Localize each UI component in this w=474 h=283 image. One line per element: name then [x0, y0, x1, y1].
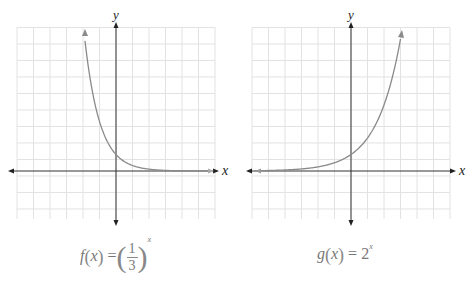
caption-f-equals: =: [108, 247, 117, 264]
right-graph-panel: y x g(x) = 2x: [237, 0, 474, 283]
y-axis-label-left: y: [111, 7, 119, 22]
caption-f-exponent: x: [148, 235, 152, 244]
caption-g-equals: =: [348, 245, 357, 262]
curve-g-start-arrow-icon: [255, 169, 261, 174]
caption-g-base: 2: [361, 245, 369, 262]
caption-f: f(x) =(13)x: [80, 240, 151, 274]
y-axis-label-right: y: [346, 7, 354, 22]
caption-g: g(x) = 2x: [317, 245, 373, 266]
left-graph-panel: y x f(x) =(13)x: [0, 0, 237, 283]
curve-g: [255, 39, 400, 171]
caption-g-name: g: [317, 245, 325, 262]
graph-g: y x: [237, 0, 474, 283]
x-axis-label-right: x: [458, 163, 466, 178]
caption-f-arg: x: [90, 247, 97, 264]
axes-right: [246, 22, 456, 226]
axes-left: [8, 22, 219, 226]
caption-g-exponent: x: [369, 242, 373, 251]
caption-f-fraction: 13: [127, 241, 138, 274]
x-axis-label-left: x: [221, 163, 229, 178]
